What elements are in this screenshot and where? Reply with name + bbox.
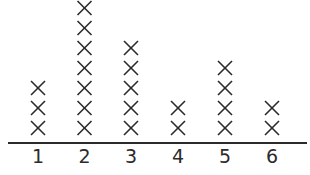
x-tick-label: 3 — [125, 145, 137, 167]
x-marker — [31, 81, 45, 95]
x-marker — [124, 81, 138, 95]
x-marker — [78, 81, 92, 95]
x-marker — [78, 101, 92, 115]
x-tick-labels: 123456 — [32, 145, 278, 167]
x-marker — [124, 101, 138, 115]
x-tick-label: 1 — [32, 145, 44, 167]
x-marker — [124, 121, 138, 135]
x-tick-label: 5 — [219, 145, 231, 167]
x-tick-label: 4 — [172, 145, 184, 167]
x-marker — [78, 61, 92, 75]
line-plot: 123456 — [0, 0, 310, 175]
x-marker — [218, 61, 232, 75]
x-marker — [31, 101, 45, 115]
x-marker — [218, 121, 232, 135]
x-marker — [78, 1, 92, 15]
x-marker — [171, 121, 185, 135]
x-marker — [78, 41, 92, 55]
x-marker — [265, 101, 279, 115]
x-marker — [171, 101, 185, 115]
x-tick-label: 6 — [266, 145, 278, 167]
x-marker — [78, 121, 92, 135]
x-marker — [78, 21, 92, 35]
x-marker — [124, 41, 138, 55]
x-marker — [124, 61, 138, 75]
x-marker — [218, 81, 232, 95]
x-markers — [31, 1, 279, 135]
x-marker — [265, 121, 279, 135]
x-marker — [31, 121, 45, 135]
x-marker — [218, 101, 232, 115]
x-tick-label: 2 — [78, 145, 90, 167]
